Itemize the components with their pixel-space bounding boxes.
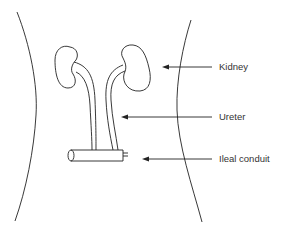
anatomy-drawing [0, 0, 289, 234]
left-kidney [55, 46, 77, 88]
right-ureter [106, 65, 123, 150]
right-kidney [122, 45, 151, 91]
left-ureter [74, 62, 96, 150]
ileal-conduit-label: Ileal conduit [219, 154, 270, 164]
ureter-label: Ureter [219, 112, 245, 122]
kidney-arrowhead-icon [162, 65, 169, 70]
diagram-canvas: Kidney Ureter Ileal conduit [0, 0, 289, 234]
ileal-conduit [68, 150, 128, 161]
kidney-label: Kidney [219, 62, 248, 72]
ureter-arrowhead-icon [121, 115, 128, 120]
body-outline-right [177, 20, 202, 222]
conduit-arrowhead-icon [142, 157, 149, 162]
body-outline-left [15, 12, 36, 221]
